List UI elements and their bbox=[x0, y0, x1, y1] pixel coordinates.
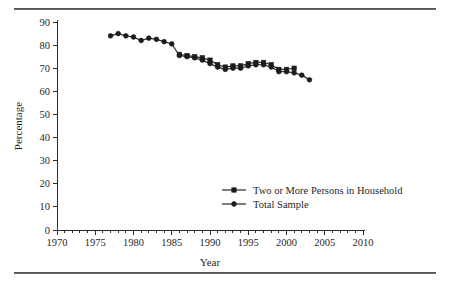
data-point bbox=[215, 65, 220, 70]
legend-marker-0 bbox=[232, 188, 236, 192]
x-axis-tick-label: 2000 bbox=[276, 237, 297, 248]
x-axis-title: Year bbox=[200, 256, 221, 268]
data-point bbox=[238, 66, 243, 71]
data-point bbox=[299, 73, 304, 78]
data-point bbox=[276, 69, 281, 74]
x-axis-tick-label: 1990 bbox=[200, 237, 221, 248]
data-point bbox=[307, 77, 312, 82]
chart-canvas: 0102030405060708090197019751980198519901… bbox=[0, 0, 450, 287]
x-axis-tick-label: 1970 bbox=[47, 237, 68, 248]
data-point bbox=[284, 69, 289, 74]
data-point bbox=[108, 33, 113, 38]
data-point bbox=[231, 66, 236, 71]
data-point bbox=[200, 58, 205, 63]
data-point bbox=[169, 42, 174, 47]
top-rule bbox=[14, 8, 436, 10]
y-axis-title: Percentage bbox=[12, 102, 24, 150]
data-point bbox=[192, 55, 197, 60]
y-axis-tick-label: 70 bbox=[40, 63, 51, 74]
data-point bbox=[177, 53, 182, 58]
y-axis-tick-label: 80 bbox=[40, 40, 51, 51]
y-axis-tick-label: 60 bbox=[40, 86, 51, 97]
legend-label-1: Total Sample bbox=[253, 199, 309, 210]
legend-label-0: Two or More Persons in Household bbox=[253, 185, 403, 196]
x-axis-tick-label: 2010 bbox=[353, 237, 374, 248]
y-axis-tick-label: 0 bbox=[45, 225, 50, 236]
y-axis-tick-label: 50 bbox=[40, 109, 51, 120]
y-axis-tick-label: 90 bbox=[40, 17, 51, 28]
data-point bbox=[254, 62, 259, 67]
chart-axes bbox=[57, 20, 365, 230]
data-point bbox=[123, 33, 128, 38]
data-point bbox=[269, 65, 274, 70]
bottom-rule bbox=[14, 272, 436, 274]
legend-marker-1 bbox=[232, 202, 237, 207]
data-point bbox=[146, 36, 151, 41]
data-point bbox=[208, 61, 213, 66]
data-point bbox=[162, 39, 167, 44]
y-axis-tick-label: 30 bbox=[40, 155, 51, 166]
data-point bbox=[116, 31, 121, 36]
data-point bbox=[139, 38, 144, 43]
data-point bbox=[292, 70, 297, 75]
x-axis-tick-label: 2005 bbox=[314, 237, 335, 248]
y-axis-tick-label: 10 bbox=[40, 201, 51, 212]
y-axis-tick-label: 20 bbox=[40, 178, 51, 189]
data-point bbox=[261, 62, 266, 67]
data-point bbox=[185, 54, 190, 59]
x-axis-tick-label: 1985 bbox=[161, 237, 182, 248]
x-axis-tick-label: 1980 bbox=[123, 237, 144, 248]
x-axis-tick-label: 1975 bbox=[85, 237, 106, 248]
data-point bbox=[154, 37, 159, 42]
figure-container: 0102030405060708090197019751980198519901… bbox=[0, 0, 450, 287]
y-axis-tick-label: 40 bbox=[40, 132, 51, 143]
data-point bbox=[292, 66, 296, 70]
data-point bbox=[131, 35, 136, 40]
data-point bbox=[223, 67, 228, 72]
data-point bbox=[246, 64, 251, 69]
x-axis-tick-label: 1995 bbox=[238, 237, 259, 248]
